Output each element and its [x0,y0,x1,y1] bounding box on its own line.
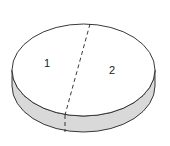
cylinder-diagram: 1 2 [0,0,170,146]
cylinder-top [12,24,155,116]
region-label-2: 2 [109,64,115,76]
region-label-1: 1 [44,57,50,69]
